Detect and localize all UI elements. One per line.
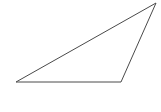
triangle-diagram bbox=[0, 0, 161, 112]
triangle-shape bbox=[16, 3, 156, 82]
figure-canvas bbox=[0, 0, 161, 112]
